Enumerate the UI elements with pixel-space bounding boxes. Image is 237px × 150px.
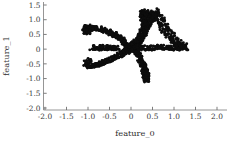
data-point	[100, 25, 103, 28]
data-point	[163, 19, 166, 22]
data-point	[160, 31, 163, 34]
data-point	[136, 54, 139, 57]
data-point	[105, 44, 108, 47]
data-point	[91, 27, 94, 30]
x-tick-label: 1.5	[190, 112, 202, 121]
x-tick-label: 1.0	[168, 112, 180, 121]
data-point	[136, 46, 139, 49]
data-point	[144, 65, 147, 68]
x-tick-label: 0	[129, 112, 134, 121]
x-axis-tick-labels: -2.0-1.5-1.0-0.500.51.01.52.0	[38, 112, 223, 121]
data-point	[151, 47, 154, 50]
data-point	[140, 49, 143, 52]
data-point	[177, 47, 180, 50]
data-point	[161, 14, 164, 17]
data-point	[162, 44, 165, 47]
data-point	[155, 7, 158, 10]
data-point	[88, 48, 91, 51]
data-point	[164, 47, 167, 50]
data-point	[92, 48, 95, 51]
x-tick-label: -1.5	[59, 112, 74, 121]
data-point	[99, 61, 102, 64]
data-point	[115, 31, 118, 34]
y-tick-label: -0.5	[26, 60, 41, 69]
data-point	[114, 35, 117, 38]
data-point	[89, 58, 92, 61]
data-point	[175, 45, 178, 48]
data-point	[105, 58, 108, 61]
data-point	[162, 28, 165, 31]
data-point	[120, 55, 123, 58]
x-tick-label: -1.0	[81, 112, 96, 121]
data-point	[170, 29, 173, 32]
data-point	[141, 60, 144, 63]
data-point	[165, 34, 168, 37]
data-point	[143, 16, 146, 19]
y-tick-label: -1.0	[26, 74, 41, 83]
y-tick-label: 1.5	[29, 1, 41, 10]
plot-canvas: -2.0-1.5-1.0-0.500.51.01.52.0 1.51.00.50…	[0, 0, 237, 150]
data-point	[88, 28, 91, 31]
data-point	[177, 38, 180, 41]
data-point	[142, 45, 145, 48]
data-point	[140, 69, 143, 72]
data-point	[151, 12, 154, 15]
y-tick-label: -1.5	[26, 89, 41, 98]
data-point	[144, 13, 147, 16]
data-point	[180, 39, 183, 42]
data-point	[167, 30, 170, 33]
data-point	[177, 42, 180, 45]
data-point	[161, 48, 164, 51]
y-axis-tick-labels: 1.51.00.50-0.5-1.0-1.5-2.0	[26, 1, 41, 113]
y-axis-title: feature_1	[1, 36, 11, 75]
data-point	[151, 16, 154, 19]
scatter-plot-figure: -2.0-1.5-1.0-0.500.51.01.52.0 1.51.00.50…	[0, 0, 237, 150]
data-point	[118, 48, 121, 51]
data-point	[180, 46, 183, 49]
y-tick-label: 1.0	[29, 15, 41, 24]
y-tick-label: 0.5	[29, 30, 41, 39]
x-axis-title: feature_0	[115, 128, 154, 138]
x-tick-label: 0.5	[147, 112, 159, 121]
y-tick-label: 0	[36, 45, 41, 54]
data-point	[111, 57, 114, 60]
data-point	[185, 42, 188, 45]
data-point	[155, 13, 158, 16]
data-point	[141, 33, 144, 36]
data-point	[143, 62, 146, 65]
data-point	[154, 10, 157, 13]
data-point	[139, 19, 142, 22]
data-point	[147, 72, 150, 75]
data-point	[186, 48, 189, 51]
x-tick-label: 2.0	[211, 112, 223, 121]
x-tick-label: -0.5	[102, 112, 117, 121]
data-point	[87, 57, 90, 60]
plot-background	[43, 2, 227, 110]
x-tick-label: -2.0	[38, 112, 53, 121]
data-point	[82, 64, 85, 67]
data-point	[109, 28, 112, 31]
data-point	[85, 60, 88, 63]
data-point	[161, 24, 164, 27]
y-tick-label: -2.0	[26, 104, 41, 113]
data-point	[130, 42, 133, 45]
data-point	[93, 44, 96, 47]
data-point	[173, 34, 176, 37]
